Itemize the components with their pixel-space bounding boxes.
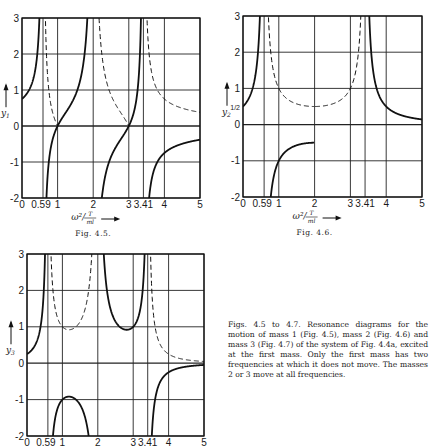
y-tick-label: -2 — [10, 193, 19, 204]
y-axis-label: y3 — [5, 345, 15, 356]
y-tick-label: 2 — [18, 285, 24, 296]
plot-3: 00.591233.41453210-1-2y3 — [5, 243, 207, 448]
x-tick-label: 2 — [95, 437, 101, 448]
x-tick-label: 2 — [312, 198, 318, 209]
dashed-curve — [43, 7, 57, 125]
y-axis-label-subscript: 3 — [11, 349, 15, 356]
x-tick-label: 1 — [276, 198, 282, 209]
x-tick-label: 3.41 — [134, 199, 154, 210]
solid-curve — [365, 5, 422, 119]
dashed-curve — [48, 243, 98, 330]
x-tick-label: 3.41 — [355, 198, 375, 209]
y-tick-label: -2 — [231, 192, 240, 203]
y-axis-label: y1 — [0, 108, 10, 119]
y-tick-label: -1 — [231, 155, 240, 166]
x-tick-label: 3.41 — [138, 437, 158, 448]
figure-caption: Figs. 4.5 to 4.7. Resonance diagrams for… — [228, 320, 428, 380]
solid-curve — [98, 243, 148, 330]
x-axis-label-omega: ω²/ — [71, 212, 86, 222]
plot-frame — [27, 254, 204, 436]
solid-curve — [43, 7, 93, 209]
dashed-curve — [264, 5, 314, 106]
x-tick-label: 2 — [90, 199, 96, 210]
x-tick-label: 0.59 — [31, 199, 51, 210]
figure-canvas: 00.591233.41453210-1-2y1ω²/TmlFig. 4.5.0… — [0, 0, 432, 448]
x-tick-label: 0 — [24, 437, 30, 448]
figure-number: Fig. 4.6. — [297, 228, 333, 237]
dashed-curve — [144, 7, 200, 112]
solid-curve — [243, 5, 264, 106]
x-tick-label: 1 — [55, 199, 61, 210]
y-tick-label: 0 — [13, 121, 19, 132]
dashed-curve — [93, 7, 128, 126]
y-tick-label: 3 — [13, 13, 19, 24]
solid-curve — [93, 7, 143, 209]
dashed-curve — [315, 5, 365, 106]
x-tick-label: 3 — [126, 199, 132, 210]
x-tick-label: 3 — [130, 437, 136, 448]
y-axis-arrowhead — [225, 82, 230, 89]
y-tick-label: 3 — [234, 11, 240, 22]
y-axis-label-subscript: 2 — [226, 111, 231, 118]
y-tick-label: 2 — [13, 49, 19, 60]
x-tick-label: 0 — [240, 198, 246, 209]
x-tick-label: 0.59 — [252, 198, 272, 209]
x-tick-label: 0.59 — [36, 437, 56, 448]
x-tick-label: 4 — [166, 437, 172, 448]
x-axis-label-denominator: ml — [308, 217, 316, 224]
y-tick-label: -2 — [15, 431, 24, 442]
x-tick-label: 4 — [162, 199, 168, 210]
x-axis-label-numerator: T — [310, 209, 315, 216]
plot-1: 00.591233.41453210-1-2y1ω²/TmlFig. 4.5. — [0, 7, 203, 238]
y-tick-label: -1 — [10, 157, 19, 168]
y-tick-label: 1 — [18, 321, 24, 332]
y-tick-label: 0 — [18, 358, 24, 369]
x-tick-label: 5 — [201, 437, 207, 448]
solid-curve — [27, 243, 48, 354]
x-tick-label: 4 — [383, 198, 389, 209]
dashed-curve — [148, 243, 204, 361]
y-tick-label: 0 — [234, 119, 240, 130]
x-tick-label: 3 — [348, 198, 354, 209]
solid-curve — [148, 365, 204, 447]
x-axis-label-denominator: ml — [86, 218, 94, 225]
y-tick-label: -1 — [15, 394, 24, 405]
y-axis-arrowhead — [4, 83, 9, 90]
y-tick-label: 2 — [234, 47, 240, 58]
solid-curve — [22, 7, 43, 99]
x-tick-label: 0 — [19, 199, 25, 210]
y-tick-label: 1 — [234, 83, 240, 94]
x-axis-arrowhead — [114, 217, 120, 222]
x-tick-label: 5 — [419, 198, 425, 209]
x-tick-label: 5 — [197, 199, 203, 210]
x-axis-arrowhead — [336, 216, 342, 221]
x-axis-label-omega: ω²/ — [293, 211, 308, 221]
x-axis-label-numerator: T — [88, 210, 93, 217]
plot-2: 00.591233.41453210-1-2y21/2ω²/TmlFig. 4.… — [221, 5, 425, 237]
y-tick-label: 3 — [18, 249, 24, 260]
y-tick-label: 1 — [13, 85, 19, 96]
y-axis-arrowhead — [9, 320, 14, 327]
y-tick-half: 1/2 — [230, 104, 240, 111]
figure-number: Fig. 4.5. — [75, 229, 111, 238]
x-tick-label: 1 — [60, 437, 66, 448]
y-axis-label-subscript: 1 — [6, 112, 10, 119]
